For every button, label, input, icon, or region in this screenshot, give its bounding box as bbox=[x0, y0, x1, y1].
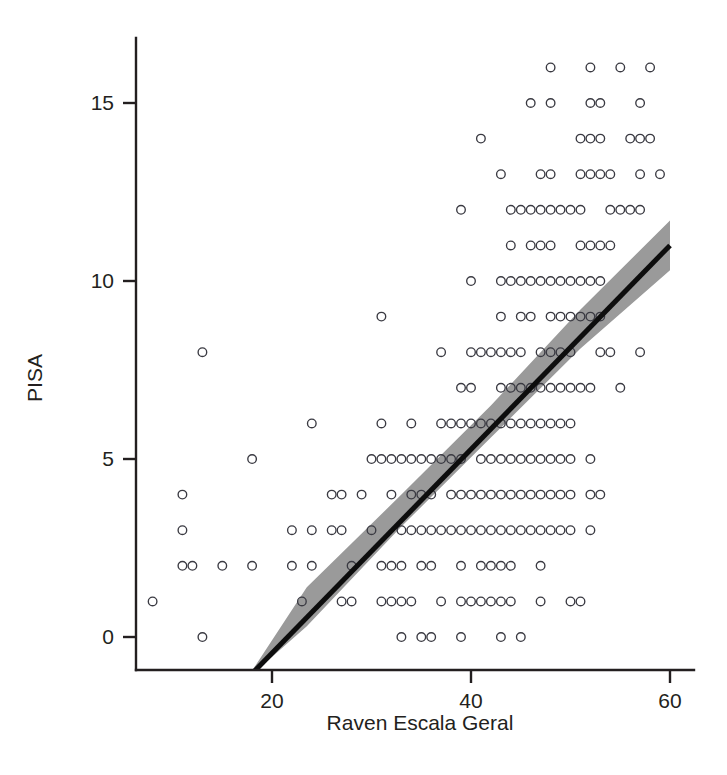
data-point bbox=[546, 241, 555, 250]
data-point bbox=[507, 455, 516, 464]
data-point bbox=[507, 241, 516, 250]
data-point bbox=[566, 455, 575, 464]
data-point bbox=[407, 526, 416, 535]
data-point bbox=[566, 384, 575, 393]
data-point bbox=[447, 526, 456, 535]
data-point bbox=[487, 455, 496, 464]
data-point bbox=[566, 312, 575, 321]
data-point bbox=[457, 490, 466, 499]
data-point bbox=[536, 206, 545, 215]
data-point bbox=[327, 526, 336, 535]
data-point bbox=[178, 562, 187, 571]
data-point bbox=[457, 633, 466, 642]
data-point bbox=[337, 490, 346, 499]
data-points-group bbox=[148, 63, 664, 641]
data-point bbox=[417, 633, 426, 642]
data-point bbox=[497, 384, 506, 393]
data-point bbox=[507, 526, 516, 535]
data-point bbox=[427, 562, 436, 571]
data-point bbox=[288, 562, 297, 571]
data-point bbox=[556, 490, 565, 499]
data-point bbox=[626, 206, 635, 215]
data-point bbox=[546, 277, 555, 286]
data-point bbox=[427, 455, 436, 464]
data-point bbox=[497, 312, 506, 321]
data-point bbox=[507, 597, 516, 606]
data-point bbox=[497, 490, 506, 499]
data-point bbox=[576, 384, 585, 393]
data-point bbox=[477, 597, 486, 606]
data-point bbox=[437, 526, 446, 535]
data-point bbox=[457, 419, 466, 428]
data-point bbox=[517, 490, 526, 499]
data-point bbox=[566, 419, 575, 428]
data-point bbox=[487, 562, 496, 571]
data-point bbox=[546, 206, 555, 215]
data-point bbox=[497, 348, 506, 357]
data-point bbox=[427, 633, 436, 642]
data-point bbox=[347, 597, 356, 606]
data-point bbox=[536, 597, 545, 606]
data-point bbox=[536, 419, 545, 428]
data-point bbox=[507, 277, 516, 286]
regression-line bbox=[246, 245, 670, 679]
data-point bbox=[576, 134, 585, 143]
data-point bbox=[556, 526, 565, 535]
data-point bbox=[497, 562, 506, 571]
data-point bbox=[507, 562, 516, 571]
axis-labels-group: 051015204060Raven Escala GeralPISA bbox=[23, 91, 682, 734]
data-point bbox=[327, 490, 336, 499]
data-point bbox=[546, 455, 555, 464]
data-point bbox=[536, 562, 545, 571]
data-point bbox=[596, 99, 605, 108]
data-point bbox=[477, 490, 486, 499]
data-point bbox=[477, 348, 486, 357]
data-point bbox=[427, 526, 436, 535]
data-point bbox=[556, 206, 565, 215]
data-point bbox=[397, 597, 406, 606]
data-point bbox=[407, 455, 416, 464]
data-point bbox=[526, 312, 535, 321]
data-point bbox=[556, 419, 565, 428]
data-point bbox=[586, 241, 595, 250]
data-point bbox=[377, 562, 386, 571]
data-point bbox=[497, 170, 506, 179]
data-point bbox=[377, 455, 386, 464]
data-point bbox=[497, 526, 506, 535]
data-point bbox=[656, 170, 665, 179]
data-point bbox=[596, 277, 605, 286]
y-axis-title: PISA bbox=[23, 354, 46, 402]
data-point bbox=[437, 419, 446, 428]
data-point bbox=[387, 490, 396, 499]
data-point bbox=[497, 455, 506, 464]
data-point bbox=[497, 597, 506, 606]
y-tick-label: 0 bbox=[102, 625, 114, 648]
data-point bbox=[198, 348, 207, 357]
data-point bbox=[517, 348, 526, 357]
data-point bbox=[626, 134, 635, 143]
data-point bbox=[636, 170, 645, 179]
y-tick-label: 5 bbox=[102, 447, 114, 470]
data-point bbox=[487, 490, 496, 499]
data-point bbox=[586, 384, 595, 393]
data-point bbox=[536, 526, 545, 535]
data-point bbox=[507, 419, 516, 428]
data-point bbox=[536, 170, 545, 179]
data-point bbox=[397, 455, 406, 464]
confidence-band-area bbox=[208, 221, 670, 680]
data-point bbox=[457, 526, 466, 535]
data-point bbox=[566, 490, 575, 499]
data-point bbox=[497, 277, 506, 286]
data-point bbox=[397, 633, 406, 642]
data-point bbox=[407, 597, 416, 606]
data-point bbox=[636, 99, 645, 108]
data-point bbox=[576, 597, 585, 606]
x-tick-label: 40 bbox=[459, 689, 482, 712]
data-point bbox=[596, 490, 605, 499]
data-point bbox=[616, 384, 625, 393]
x-tick-label: 20 bbox=[260, 689, 283, 712]
data-point bbox=[308, 562, 317, 571]
data-point bbox=[188, 562, 197, 571]
data-point bbox=[586, 99, 595, 108]
data-point bbox=[596, 348, 605, 357]
